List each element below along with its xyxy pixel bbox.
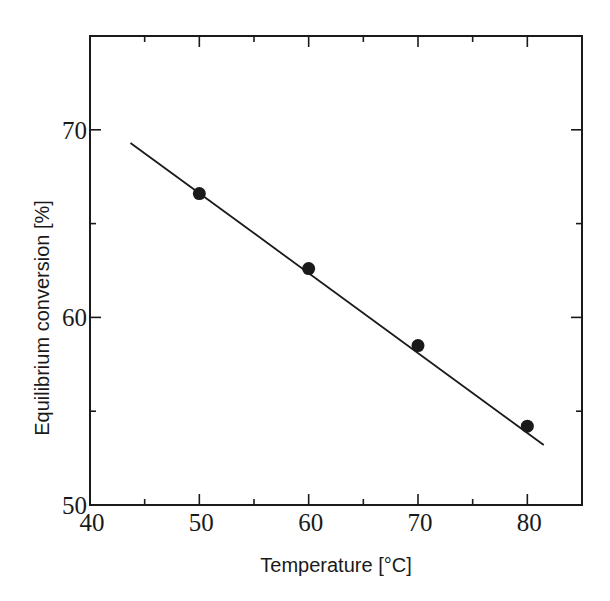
data-point [412, 339, 425, 352]
x-tick-label: 50 [189, 509, 214, 536]
x-axis-title: Temperature [°C] [260, 554, 411, 576]
x-tick-labels: 4050607080 [80, 509, 542, 536]
x-tick-label: 70 [408, 509, 433, 536]
y-tick-label: 70 [62, 117, 87, 144]
plot-frame [90, 36, 582, 505]
axis-ticks [90, 36, 582, 505]
data-point [521, 420, 534, 433]
x-tick-label: 80 [517, 509, 542, 536]
data-point [193, 187, 206, 200]
fit-line-path [130, 143, 543, 445]
data-points [193, 187, 534, 433]
x-tick-label: 60 [298, 509, 323, 536]
y-tick-label: 50 [62, 492, 87, 519]
chart: 4050607080 506070 Temperature [°C] Equil… [0, 0, 610, 601]
y-axis-title: Equilibrium conversion [%] [31, 200, 53, 436]
fit-line [130, 143, 543, 445]
axes-box [90, 36, 582, 505]
y-tick-label: 60 [62, 304, 87, 331]
data-point [302, 262, 315, 275]
y-tick-labels: 506070 [62, 117, 87, 519]
